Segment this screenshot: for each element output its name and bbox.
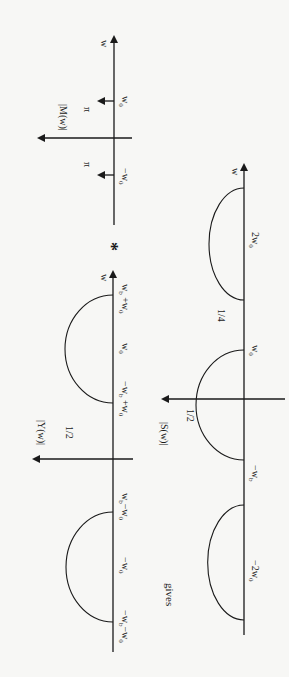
s-tick-2w0: 2w0 bbox=[247, 232, 261, 248]
s-w-label: w bbox=[230, 168, 241, 176]
y-tick-w0: w0 bbox=[117, 343, 131, 354]
s-tick-w0: w0 bbox=[247, 345, 261, 356]
s-center-peak-label: 1/2 bbox=[185, 409, 196, 422]
s-lobe-pos-2w0 bbox=[209, 188, 244, 300]
y-tick-neg-w0: −w0 bbox=[117, 557, 131, 574]
diagram-canvas: w |M(w)| π π w0 −w0 * w |Y(w)| 1/2 wb +w… bbox=[0, 0, 289, 677]
plot-m: w |M(w)| π π w0 −w0 bbox=[39, 37, 132, 225]
s-lobe-center bbox=[196, 350, 244, 460]
y-lobe-pos bbox=[65, 295, 113, 403]
y-lobe-neg bbox=[66, 512, 113, 622]
y-tick-wb-plus-w0: wb +w0 bbox=[117, 284, 131, 314]
y-peak-label: 1/2 bbox=[64, 426, 75, 439]
convolution-symbol: * bbox=[101, 242, 121, 251]
gives-text: gives bbox=[164, 583, 176, 606]
m-ylabel: |M(w)| bbox=[57, 104, 69, 131]
s-side-peak-label: 1/4 bbox=[216, 309, 227, 322]
s-tick-neg-2w0: −2w0 bbox=[247, 560, 261, 582]
m-pi-label-neg: π bbox=[82, 162, 93, 167]
y-tick-neg-wb-minus-w0: −wb−w0 bbox=[117, 610, 131, 643]
plot-s: w |S(w)| 1/2 1/4 2w0 w0 −wb −2w0 bbox=[158, 165, 285, 635]
m-tick-w0: w0 bbox=[117, 96, 131, 107]
m-w-label: w bbox=[99, 40, 110, 48]
s-ylabel: |S(w)| bbox=[158, 422, 170, 445]
y-tick-wb-minus-w0: wb−w0 bbox=[117, 493, 131, 521]
s-tick-neg-wb: −wb bbox=[247, 465, 261, 482]
m-pi-label-pos: π bbox=[82, 107, 93, 112]
s-lobe-neg-2w0 bbox=[208, 505, 244, 620]
y-tick-neg-wb-plus-w0: −wb +w0 bbox=[117, 381, 131, 417]
m-tick-neg-w0: −w0 bbox=[117, 168, 131, 185]
plot-y: w |Y(w)| 1/2 wb +w0 w0 −wb +w0 wb−w0 −w0… bbox=[34, 272, 133, 652]
y-w-label: w bbox=[99, 274, 110, 282]
y-ylabel: |Y(w)| bbox=[35, 420, 47, 445]
